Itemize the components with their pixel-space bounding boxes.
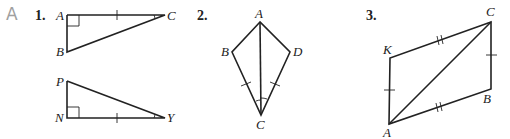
- label-c: C: [256, 117, 265, 132]
- label-k: K: [382, 42, 393, 57]
- label-p: P: [55, 74, 64, 89]
- triangle-abc: A B C: [55, 8, 176, 59]
- quadrilateral-ckab: C K B A: [382, 4, 497, 139]
- kite-abcd: A B D C: [221, 6, 303, 132]
- geometry-exercise-figure: A 1. A B C P N Y 2. A B D C 3.: [0, 0, 510, 139]
- angle-arc: [261, 98, 267, 99]
- label-a: A: [55, 8, 64, 23]
- diagonal-ac: [389, 22, 491, 124]
- label-c: C: [486, 4, 495, 19]
- diagonal-ac: [260, 22, 261, 115]
- label-b: B: [483, 91, 491, 106]
- triangle-pny: P N Y: [54, 74, 176, 125]
- label-c: C: [167, 8, 176, 23]
- problem-number-3: 3.: [366, 8, 377, 23]
- right-angle-mark: [67, 107, 79, 118]
- right-angle-mark: [67, 15, 79, 26]
- label-a: A: [382, 125, 391, 139]
- label-b: B: [56, 44, 64, 59]
- label-n: N: [54, 110, 65, 125]
- label-y: Y: [167, 110, 176, 125]
- problem-number-1: 1.: [35, 8, 46, 23]
- label-b: B: [221, 44, 229, 59]
- problem-number-2: 2.: [197, 8, 208, 23]
- section-letter: A: [6, 4, 18, 24]
- label-d: D: [292, 44, 303, 59]
- label-a: A: [254, 6, 263, 21]
